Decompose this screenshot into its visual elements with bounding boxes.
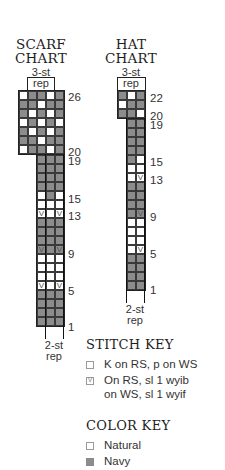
color-key-item-navy: Navy xyxy=(104,454,130,468)
navy-cell xyxy=(46,182,55,191)
navy-cell xyxy=(55,109,64,118)
scarf-bottom-rep-line-left xyxy=(45,154,46,339)
navy-cell xyxy=(127,119,136,128)
natural-cell xyxy=(46,281,55,290)
natural-cell xyxy=(46,254,55,263)
navy-cell xyxy=(118,91,127,100)
hat-chart-title: HAT CHART xyxy=(100,37,162,65)
hat-row-label: 13 xyxy=(150,174,163,186)
natural-cell xyxy=(28,109,37,118)
natural-cell xyxy=(127,245,136,254)
navy-cell xyxy=(46,164,55,173)
hat-bottom-rep-line-left xyxy=(126,118,127,303)
navy-cell xyxy=(55,100,64,109)
natural-cell xyxy=(46,263,55,272)
navy-cell xyxy=(46,218,55,227)
scarf-row-label: 19 xyxy=(68,155,81,167)
hat-title-line2: CHART xyxy=(100,51,162,65)
slip-stitch-icon: V xyxy=(137,245,144,254)
natural-cell xyxy=(46,209,55,218)
hat-row-label: 1 xyxy=(150,284,156,296)
natural-cell xyxy=(19,145,28,154)
color-key-item-natural: Natural xyxy=(104,438,141,452)
navy-cell xyxy=(127,109,136,118)
hat-top-grid xyxy=(117,90,146,119)
navy-cell xyxy=(136,91,145,100)
natural-cell xyxy=(127,164,136,173)
natural-cell xyxy=(127,218,136,227)
navy-cell xyxy=(46,227,55,236)
stitch-key-item-slip-line2: on WS, sl 1 wyif xyxy=(104,387,186,401)
navy-cell xyxy=(46,236,55,245)
slip-stitch-icon: V xyxy=(137,173,144,182)
navy-cell xyxy=(28,136,37,145)
scarf-row-label: 13 xyxy=(68,210,81,222)
navy-cell xyxy=(127,128,136,137)
navy-cell xyxy=(46,118,55,127)
hat-bottom-grid: VVV xyxy=(126,118,146,291)
navy-cell xyxy=(55,91,64,100)
navy-cell xyxy=(127,137,136,146)
natural-cell xyxy=(46,145,55,154)
navy-cell xyxy=(19,109,28,118)
natural-cell xyxy=(127,236,136,245)
natural-cell xyxy=(127,91,136,100)
navy-cell xyxy=(28,91,37,100)
natural-cell xyxy=(46,127,55,136)
scarf-title-line2: CHART xyxy=(10,51,72,65)
slip-stitch-icon: V xyxy=(137,209,144,218)
navy-cell xyxy=(19,127,28,136)
color-key-title: COLOR KEY xyxy=(86,418,170,433)
scarf-row-label: 26 xyxy=(68,91,81,103)
scarf-top-grid xyxy=(18,90,65,155)
navy-cell xyxy=(46,136,55,145)
hat-row-label: 19 xyxy=(150,119,163,131)
navy-cell xyxy=(37,145,46,154)
navy-cell xyxy=(127,281,136,290)
stitch-key-item-slip-line1: On RS, sl 1 wyib xyxy=(104,373,189,387)
natural-cell xyxy=(37,118,46,127)
navy-cell xyxy=(55,136,64,145)
navy-cell xyxy=(136,100,145,109)
slip-stitch-symbol-icon: V xyxy=(86,377,94,385)
navy-cell xyxy=(19,100,28,109)
navy-cell xyxy=(28,118,37,127)
stitch-key-title: STITCH KEY xyxy=(86,337,174,352)
natural-cell xyxy=(19,118,28,127)
hat-row-label: 22 xyxy=(150,92,163,104)
scarf-row-label: 15 xyxy=(68,193,81,205)
natural-cell xyxy=(28,127,37,136)
navy-cell xyxy=(127,209,136,218)
navy-cell xyxy=(127,146,136,155)
scarf-bottom-rep-line-right xyxy=(63,154,64,339)
navy-cell xyxy=(46,245,55,254)
natural-cell xyxy=(127,173,136,182)
slip-stitch-icon: V xyxy=(38,209,45,218)
navy-cell xyxy=(28,100,37,109)
navy-cell xyxy=(127,272,136,281)
slip-stitch-icon: V xyxy=(38,281,45,290)
navy-cell xyxy=(55,127,64,136)
navy-cell xyxy=(46,191,55,200)
scarf-top-rep-label: rep xyxy=(27,78,55,89)
hat-title-line1: HAT xyxy=(100,37,162,51)
navy-cell xyxy=(46,308,55,317)
hat-row-label: 9 xyxy=(150,211,156,223)
navy-cell xyxy=(127,155,136,164)
scarf-row-label: 1 xyxy=(68,321,74,333)
navy-cell xyxy=(118,109,127,118)
slip-stitch-icon: V xyxy=(56,209,63,218)
scarf-chart-title: SCARF CHART xyxy=(10,37,72,65)
scarf-bottom-rep-label: rep xyxy=(40,351,68,362)
navy-cell xyxy=(46,290,55,299)
navy-color-swatch-icon xyxy=(86,458,94,466)
navy-cell xyxy=(46,317,55,326)
natural-cell xyxy=(46,109,55,118)
navy-cell xyxy=(127,200,136,209)
hat-bottom-rep-label: rep xyxy=(121,315,149,326)
navy-cell xyxy=(37,127,46,136)
scarf-row-label: 5 xyxy=(68,285,74,297)
navy-cell xyxy=(127,263,136,272)
hat-row-label: 5 xyxy=(150,248,156,260)
natural-cell xyxy=(46,91,55,100)
